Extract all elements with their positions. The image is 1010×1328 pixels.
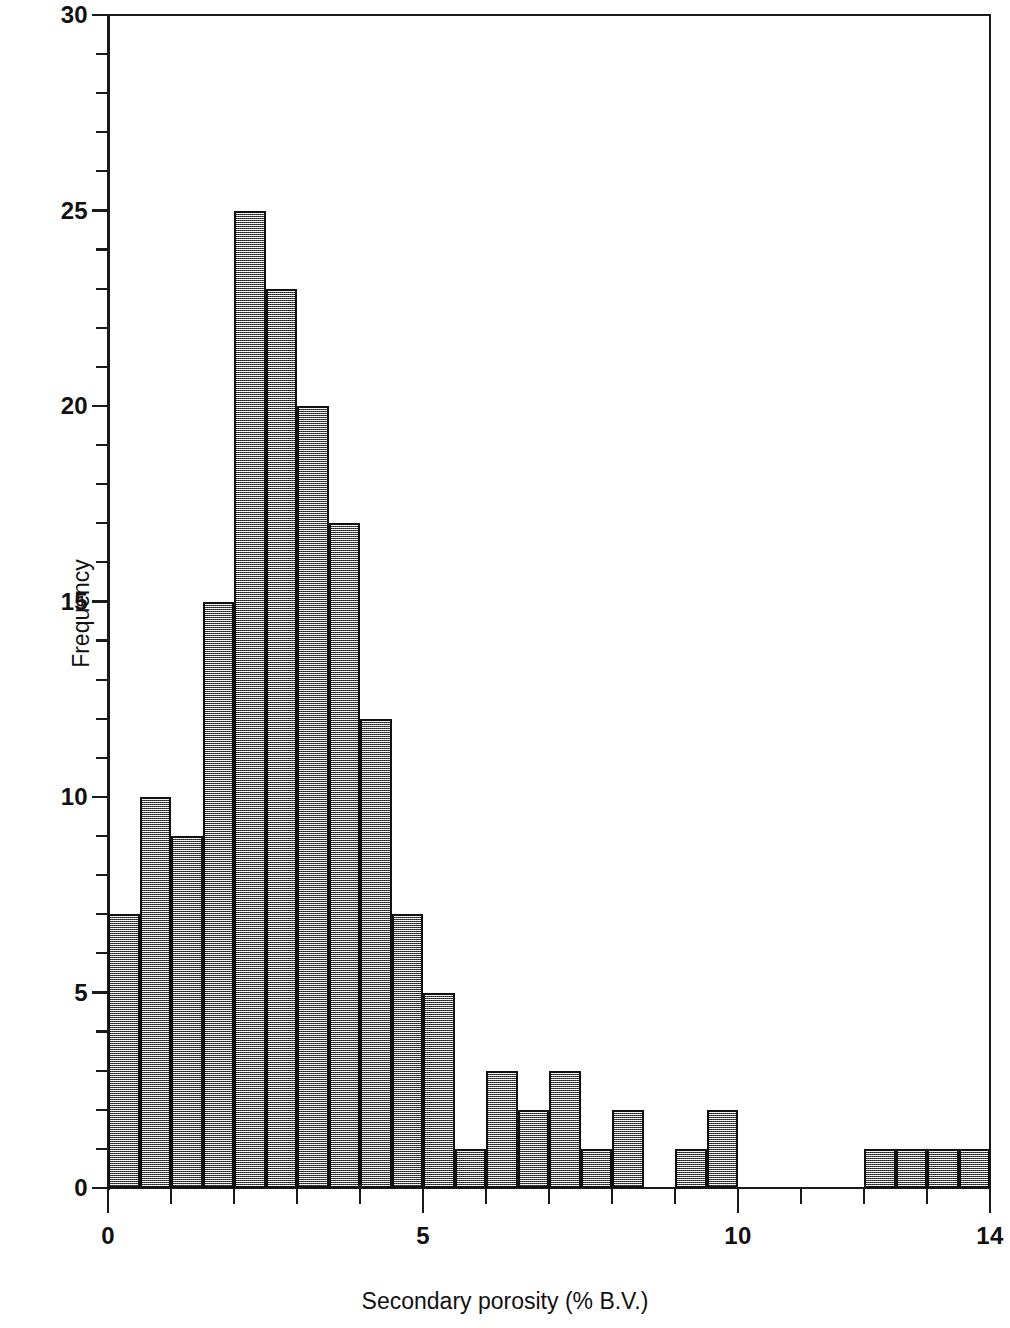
x-tick-label: 10: [698, 1222, 778, 1250]
histogram-bar: [486, 1071, 518, 1188]
y-tick-minor: [96, 639, 107, 641]
y-tick-label: 0: [28, 1176, 88, 1200]
histogram-bar: [266, 289, 298, 1188]
x-tick-minor: [485, 1189, 487, 1204]
histogram-bar: [297, 406, 329, 1188]
histogram-bar: [360, 719, 392, 1188]
y-tick-minor: [96, 131, 107, 133]
histogram-bar: [203, 602, 235, 1189]
x-tick-minor: [548, 1189, 550, 1204]
y-tick-minor: [96, 92, 107, 94]
y-tick-minor: [96, 561, 107, 563]
y-tick-minor: [96, 1109, 107, 1111]
plot-area: [108, 15, 990, 1188]
y-tick-minor: [96, 483, 107, 485]
y-tick-minor: [96, 248, 107, 250]
y-tick-minor: [96, 874, 107, 876]
histogram-bar: [581, 1149, 613, 1188]
histogram-bar: [707, 1110, 739, 1188]
y-tick-minor: [96, 718, 107, 720]
x-tick-minor: [359, 1189, 361, 1204]
y-tick-major: [92, 209, 107, 211]
y-tick-minor: [96, 1148, 107, 1150]
y-tick-minor: [96, 913, 107, 915]
y-tick-major: [92, 796, 107, 798]
y-tick-label: 20: [28, 394, 88, 418]
y-tick-minor: [96, 444, 107, 446]
histogram-bar: [896, 1149, 928, 1188]
histogram-bar: [108, 914, 140, 1188]
y-tick-major: [92, 991, 107, 993]
y-tick-minor: [96, 1030, 107, 1032]
histogram-figure: 051015202530 051014 Frequency Secondary …: [0, 0, 1010, 1328]
y-tick-label: 30: [28, 3, 88, 27]
histogram-bar: [234, 211, 266, 1189]
x-tick-minor: [863, 1189, 865, 1204]
histogram-bar: [392, 914, 424, 1188]
y-tick-major: [92, 405, 107, 407]
x-tick-minor: [674, 1189, 676, 1204]
x-tick-minor: [926, 1189, 928, 1204]
x-tick-major: [107, 1189, 109, 1213]
y-tick-minor: [96, 835, 107, 837]
histogram-bar: [864, 1149, 896, 1188]
x-tick-label: 0: [68, 1222, 148, 1250]
histogram-bar: [171, 836, 203, 1188]
y-axis-title: Frequency: [68, 514, 95, 714]
histogram-bar: [140, 797, 172, 1188]
histogram-bar: [549, 1071, 581, 1188]
y-tick-label: 25: [28, 199, 88, 223]
y-tick-minor: [96, 1070, 107, 1072]
y-tick-minor: [96, 327, 107, 329]
histogram-bar: [423, 993, 455, 1189]
x-tick-major: [422, 1189, 424, 1213]
histogram-bar: [927, 1149, 959, 1188]
histogram-bar: [455, 1149, 487, 1188]
y-tick-minor: [96, 757, 107, 759]
y-tick-minor: [96, 170, 107, 172]
histogram-bar: [675, 1149, 707, 1188]
y-tick-minor: [96, 522, 107, 524]
histogram-bar: [612, 1110, 644, 1188]
x-tick-label: 5: [383, 1222, 463, 1250]
x-tick-minor: [611, 1189, 613, 1204]
y-tick-minor: [96, 366, 107, 368]
histogram-bar: [329, 523, 361, 1188]
x-tick-minor: [800, 1189, 802, 1204]
y-tick-major: [92, 1187, 107, 1189]
y-tick-label: 10: [28, 785, 88, 809]
y-tick-minor: [96, 288, 107, 290]
x-axis-title: Secondary porosity (% B.V.): [0, 1288, 1010, 1315]
x-tick-minor: [170, 1189, 172, 1204]
y-tick-minor: [96, 679, 107, 681]
y-tick-major: [92, 14, 107, 16]
histogram-bar: [959, 1149, 991, 1188]
x-tick-major: [989, 1189, 991, 1213]
y-tick-minor: [96, 53, 107, 55]
x-tick-major: [737, 1189, 739, 1213]
y-tick-label: 5: [28, 981, 88, 1005]
x-tick-minor: [296, 1189, 298, 1204]
y-tick-minor: [96, 952, 107, 954]
x-tick-minor: [233, 1189, 235, 1204]
histogram-bar: [518, 1110, 550, 1188]
x-tick-label: 14: [950, 1222, 1010, 1250]
